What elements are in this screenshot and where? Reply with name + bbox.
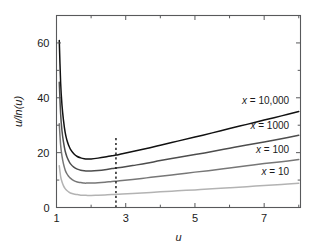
y-tick-label: 40 [37,92,49,104]
x-axis-title: u [175,231,181,243]
y-tick-label: 20 [37,147,49,159]
y-tick-label: 60 [37,37,49,49]
plot-frame [57,16,301,208]
x-tick-label: 1 [53,212,59,224]
svg-text:x = 10: x = 10 [261,166,290,177]
x-tick-label: 5 [192,212,198,224]
series-label: x = 1000 [249,120,289,131]
y-axis-title: u/ln(u) [12,96,24,128]
series-label: x = 100 [255,144,290,155]
series-label: x = 10 [261,166,290,177]
series-label: x = 10,000 [241,95,289,106]
svg-text:x = 1000: x = 1000 [249,120,289,131]
x-tick-label: 7 [261,212,267,224]
chart-canvas: 13570204060uu/ln(u)x = 10,000x = 1000x =… [0,0,322,249]
tick-layer [57,16,301,208]
chart-figure: 13570204060uu/ln(u)x = 10,000x = 1000x =… [0,0,322,249]
svg-text:x = 100: x = 100 [255,144,290,155]
label-layer: 13570204060uu/ln(u)x = 10,000x = 1000x =… [12,37,290,243]
axes-frame [57,16,301,208]
svg-text:x = 10,000: x = 10,000 [241,95,289,106]
y-tick-label: 0 [43,202,49,214]
x-tick-label: 3 [123,212,129,224]
